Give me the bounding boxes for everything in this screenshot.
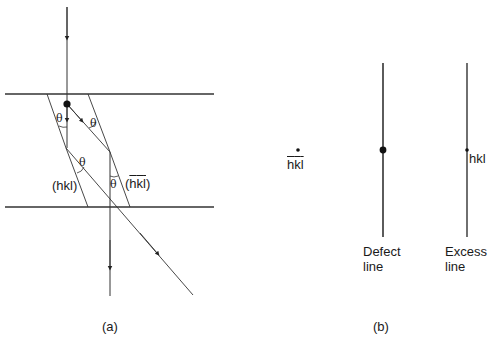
spot-label-hkl-bar: hkl	[287, 158, 304, 172]
excess-line-label-2: line	[445, 260, 465, 274]
panel-a-geometry	[5, 7, 214, 296]
defect-line-label-1: Defect	[363, 245, 401, 259]
theta-label-1: θ	[56, 113, 63, 124]
theta-label-2: θ	[90, 118, 97, 129]
scattering-point	[63, 100, 70, 107]
defect-line-spot	[380, 147, 387, 154]
plane-label-hkl-bar: (hkl)	[125, 177, 150, 191]
theta-label-4: θ	[110, 179, 117, 190]
diffraction-diagram	[0, 0, 490, 340]
defect-line-label-2: line	[363, 260, 383, 274]
excess-spot-label: hkl	[469, 152, 486, 166]
theta-label-3: θ	[79, 157, 86, 168]
excess-line-label-1: Excess	[445, 245, 487, 259]
direct-spot	[296, 148, 300, 152]
caption-b: (b)	[373, 320, 389, 334]
plane-label-hkl: (hkl)	[52, 179, 77, 193]
caption-a: (a)	[102, 320, 118, 334]
panel-b-geometry	[383, 63, 467, 237]
